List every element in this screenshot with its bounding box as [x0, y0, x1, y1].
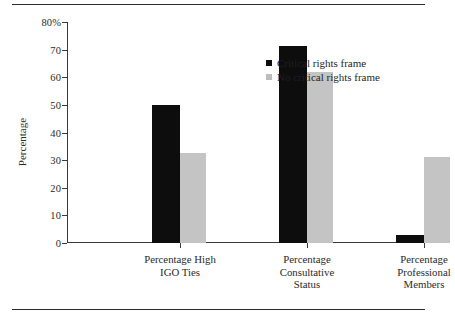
bottom-rule [12, 309, 425, 310]
y-tick-mark [62, 160, 67, 161]
x-tick-0 [180, 243, 181, 248]
y-tick-label: 20 [50, 182, 61, 193]
y-tick-label: 80% [41, 17, 61, 28]
black-square-icon [266, 60, 272, 66]
legend-label-1: No critical rights frame [277, 70, 380, 84]
legend-item-critical-rights-frame: Critical rights frame [266, 56, 380, 70]
y-tick-mark [62, 133, 67, 134]
y-axis-line [67, 22, 68, 243]
y-tick-mark [62, 50, 67, 51]
y-tick-label: 40 [50, 127, 61, 138]
bar-no-critical-rights-frame-2 [424, 157, 450, 243]
y-tick-mark [62, 188, 67, 189]
category-label-2: Percentage Professional Members [364, 253, 455, 291]
y-tick-label: 70 [50, 44, 61, 55]
y-tick-mark [62, 22, 67, 23]
y-tick-label: 0 [56, 238, 61, 249]
legend-item-no-critical-rights-frame: No critical rights frame [266, 70, 380, 84]
x-tick-2 [424, 243, 425, 248]
y-axis-title: Percentage [14, 96, 30, 188]
bar-critical-rights-frame-0 [152, 105, 180, 243]
y-tick-label: 50 [50, 99, 61, 110]
y-tick-mark [62, 105, 67, 106]
y-tick-mark [62, 77, 67, 78]
bar-no-critical-rights-frame-0 [180, 153, 206, 243]
y-axis-title-text: Percentage [16, 118, 28, 166]
x-tick-1 [307, 243, 308, 248]
y-tick-mark [62, 215, 67, 216]
x-axis-line [67, 242, 417, 243]
top-rule [12, 4, 425, 5]
gray-square-icon [266, 74, 272, 80]
chart-legend: Critical rights frame No critical rights… [266, 56, 380, 84]
y-tick-mark [62, 243, 67, 244]
y-tick-label: 10 [50, 210, 61, 221]
category-label-0: Percentage High IGO Ties [120, 253, 240, 278]
category-label-1: Percentage Consultative Status [247, 253, 367, 291]
bar-critical-rights-frame-2 [396, 235, 424, 243]
legend-label-0: Critical rights frame [277, 56, 366, 70]
bar-no-critical-rights-frame-1 [307, 72, 333, 243]
y-tick-label: 60 [50, 72, 61, 83]
y-tick-label: 30 [50, 155, 61, 166]
